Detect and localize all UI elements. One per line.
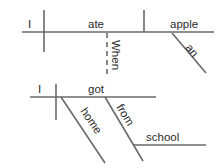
lower-adverb-word: home [78,105,104,136]
lower-verb-word: got [88,83,105,95]
lower-prep-object-word: school [146,131,179,143]
upper-subject-word: I [28,18,31,30]
diagram-canvas: I ate apple When an I got home from sch [0,0,223,168]
diagram-lower: I got home from school [30,83,206,163]
lower-preposition-word: from [114,102,136,128]
upper-object-word: apple [170,18,198,30]
sentence-diagram-page: I ate apple When an I got home from sch [0,0,223,168]
upper-verb-word: ate [88,18,104,30]
upper-subordinator-word: When [110,40,122,70]
upper-article-word: an [183,42,200,60]
lower-subject-word: I [38,83,41,95]
diagram-upper: I ate apple When an [22,10,214,78]
